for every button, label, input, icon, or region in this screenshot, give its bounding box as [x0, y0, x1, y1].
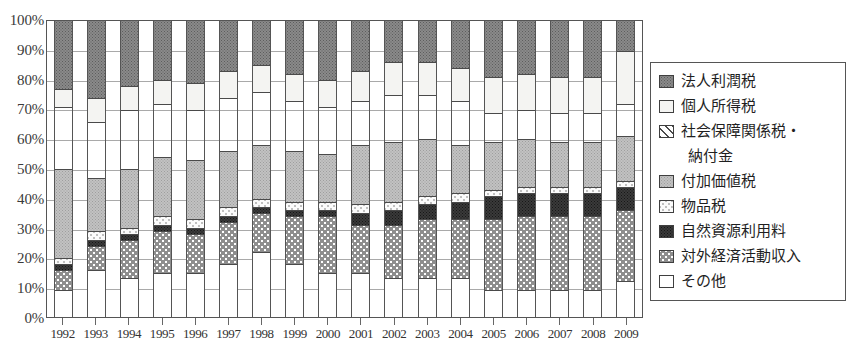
legend-item-label: 社会保障関係税・ [681, 124, 801, 139]
bar-segment [485, 113, 502, 143]
bar-segment [352, 204, 369, 213]
legend-item-6[interactable]: 対外経済活動収入 [659, 244, 838, 269]
bar-1992[interactable] [54, 21, 73, 317]
legend-item-2[interactable]: 社会保障関係税・ [659, 119, 838, 144]
bar-segment [385, 21, 402, 62]
y-axis-tick-label: 40% [0, 191, 44, 206]
bar-1993[interactable] [87, 21, 106, 317]
legend-item-3[interactable]: 付加価値税 [659, 169, 838, 194]
legend-item-1[interactable]: 個人所得税 [659, 94, 838, 119]
bar-segment [419, 204, 436, 219]
bar-segment [452, 219, 469, 278]
bar-segment [584, 193, 601, 217]
bar-segment [319, 107, 336, 154]
bar-1999[interactable] [285, 21, 304, 317]
y-axis-tick-label: 30% [0, 221, 44, 236]
x-axis-tick [526, 318, 527, 325]
bar-segment [352, 101, 369, 145]
x-axis-tick-label: 1992 [46, 327, 79, 341]
bar-2008[interactable] [583, 21, 602, 317]
x-axis-tick [460, 318, 461, 325]
bar-segment [485, 142, 502, 189]
bar-segment [154, 21, 171, 80]
bar-segment [220, 222, 237, 263]
bar-segment [154, 104, 171, 157]
bar-segment [286, 216, 303, 263]
legend-item-5[interactable]: 自然資源利用料 [659, 219, 838, 244]
bar-segment [617, 104, 634, 137]
bar-segment [385, 142, 402, 201]
bar-segment [617, 281, 634, 317]
bar-segment [286, 151, 303, 201]
y-axis: 100%90%80%70%60%50%40%30%20%10%0% [0, 0, 44, 360]
legend-item-4[interactable]: 物品税 [659, 194, 838, 219]
bar-segment [584, 142, 601, 186]
bar-1998[interactable] [252, 21, 271, 317]
bar-segment [518, 74, 535, 110]
bar-1994[interactable] [120, 21, 139, 317]
bar-segment [286, 21, 303, 74]
bar-segment [584, 113, 601, 143]
bar-segment [485, 290, 502, 317]
bar-segment [88, 21, 105, 98]
bar-segment [253, 21, 270, 65]
bar-segment [352, 273, 369, 317]
legend-item-0[interactable]: 法人利潤税 [659, 69, 838, 94]
bar-segment [584, 77, 601, 113]
y-axis-tick-label: 70% [0, 102, 44, 117]
bar-2001[interactable] [351, 21, 370, 317]
bar-2003[interactable] [418, 21, 437, 317]
x-axis-tick-label: 1994 [112, 327, 145, 341]
x-axis-tick-label: 2005 [477, 327, 510, 341]
x-axis-tick-label: 2004 [444, 327, 477, 341]
bar-segment [55, 107, 72, 169]
bar-segment [551, 21, 568, 77]
bar-1995[interactable] [153, 21, 172, 317]
bar-2002[interactable] [384, 21, 403, 317]
x-axis-tick-label: 2008 [577, 327, 610, 341]
x-axis-tick-label: 2001 [344, 327, 377, 341]
bar-segment [419, 219, 436, 278]
bar-segment [187, 110, 204, 160]
bar-segment [286, 101, 303, 151]
bar-segment [452, 278, 469, 316]
bar-segment [55, 169, 72, 258]
bar-2005[interactable] [484, 21, 503, 317]
y-axis-tick-label: 90% [0, 42, 44, 57]
bar-segment [419, 196, 436, 205]
x-axis-tick [195, 318, 196, 325]
bar-segment [286, 202, 303, 211]
bar-segment [551, 216, 568, 290]
bar-segment [551, 113, 568, 143]
bar-segment [319, 202, 336, 211]
bar-segment [452, 202, 469, 220]
bar-segment [518, 216, 535, 290]
bar-segment [253, 199, 270, 208]
bar-segment [187, 83, 204, 110]
bar-segment [385, 278, 402, 316]
bar-1997[interactable] [219, 21, 238, 317]
bar-2004[interactable] [451, 21, 470, 317]
bar-segment [319, 154, 336, 201]
bar-2006[interactable] [517, 21, 536, 317]
x-axis-tick [327, 318, 328, 325]
bar-segment [220, 21, 237, 71]
y-axis-tick-label: 100% [0, 13, 44, 28]
legend-swatch-foreign-economic-revenue [659, 250, 674, 263]
bar-segment [55, 290, 72, 317]
y-axis-tick-label: 10% [0, 281, 44, 296]
bar-segment [220, 207, 237, 216]
legend-item-7[interactable]: その他 [659, 269, 838, 294]
bar-2000[interactable] [318, 21, 337, 317]
x-axis-tick-label: 1998 [245, 327, 278, 341]
y-axis-tick-label: 0% [0, 311, 44, 326]
bar-segment [617, 187, 634, 211]
legend-item-label-continuation: 納付金 [659, 144, 838, 169]
bar-segment [419, 139, 436, 195]
bar-2007[interactable] [550, 21, 569, 317]
bar-segment [154, 157, 171, 216]
bar-1996[interactable] [186, 21, 205, 317]
x-axis-tick [427, 318, 428, 325]
bar-2009[interactable] [616, 21, 635, 317]
x-axis-labels: 1992199319941995199619971998199920002001… [46, 327, 643, 341]
